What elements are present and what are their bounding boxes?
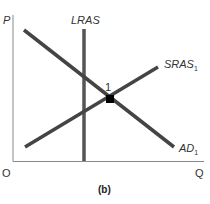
figure-caption: (b) [98, 184, 111, 195]
sras-label-subscript: 1 [194, 65, 198, 72]
equilibrium-point [106, 95, 114, 103]
ad-label-main: AD [178, 142, 194, 154]
sras-label-main: SRAS [164, 58, 195, 70]
lras-label: LRAS [71, 14, 100, 26]
origin-label: O [2, 167, 11, 179]
quantity-axis-label: Q [195, 167, 204, 179]
ad-curve [24, 30, 174, 147]
sras-curve [25, 67, 158, 147]
price-axis-label: P [3, 14, 11, 26]
ad-label: AD1 [178, 142, 198, 156]
ad-as-diagram: P LRAS SRAS1 AD1 1 O Q (b) [0, 0, 210, 204]
ad-label-subscript: 1 [194, 149, 198, 156]
equilibrium-label: 1 [105, 81, 111, 93]
sras-label: SRAS1 [164, 58, 198, 72]
